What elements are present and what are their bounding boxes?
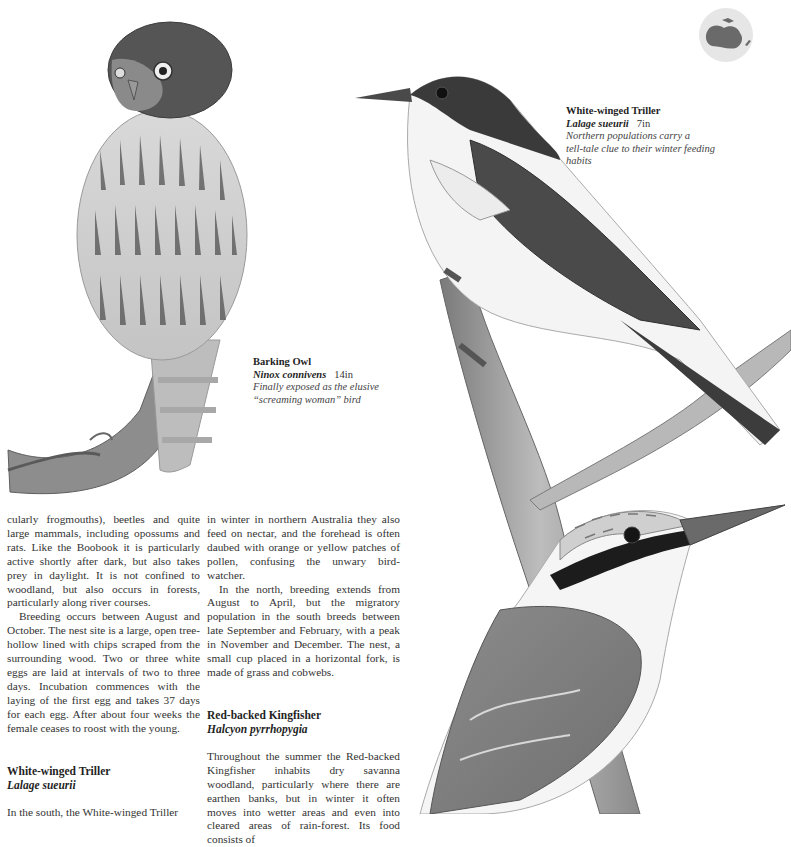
section-heading-red-backed-kingfisher: Red-backed Kingfisher xyxy=(207,708,400,722)
right-text-column: in winter in northern Australia they als… xyxy=(207,513,400,847)
triller-description-line3: habits xyxy=(566,155,766,168)
left-paragraph-1: cularly frogmouths), beetles and quite l… xyxy=(7,513,200,610)
owl-caption: Barking Owl Ninox connivens14in Finally … xyxy=(253,356,413,406)
triller-size: 7in xyxy=(637,118,650,129)
owl-scientific-name: Ninox connivens xyxy=(253,369,326,380)
section-scientific-lalage-sueurii: Lalage sueurii xyxy=(7,778,200,792)
left-paragraph-2: Breeding occurs between August and Octob… xyxy=(7,610,200,735)
red-backed-kingfisher-illustration xyxy=(420,505,785,814)
section-scientific-halcyon-pyrrhopygia: Halcyon pyrrhopygia xyxy=(207,722,400,736)
australia-globe-icon xyxy=(699,8,753,62)
right-paragraph-2: In the north, breeding extends from Augu… xyxy=(207,583,400,680)
barking-owl-illustration xyxy=(77,22,247,472)
left-text-column: cularly frogmouths), beetles and quite l… xyxy=(7,513,200,819)
section-heading-white-winged-triller: White-winged Triller xyxy=(7,764,200,778)
triller-description-line1: Northern populations carry a xyxy=(566,130,766,143)
triller-common-name: White-winged Triller xyxy=(566,105,766,118)
triller-caption: White-winged Triller Lalage sueurii7in N… xyxy=(566,105,766,168)
owl-size: 14in xyxy=(334,369,353,380)
owl-description-line1: Finally exposed as the elusive xyxy=(253,381,413,394)
owl-description-line2: “screaming woman” bird xyxy=(253,394,413,407)
triller-scientific-name: Lalage sueurii xyxy=(566,118,629,129)
owl-common-name: Barking Owl xyxy=(253,356,413,369)
triller-description-line2: tell-tale clue to their winter feeding xyxy=(566,143,766,156)
right-paragraph-3: Throughout the summer the Red-backed Kin… xyxy=(207,750,400,847)
right-paragraph-1: in winter in northern Australia they als… xyxy=(207,513,400,583)
left-paragraph-3: In the south, the White-winged Triller xyxy=(7,806,200,820)
